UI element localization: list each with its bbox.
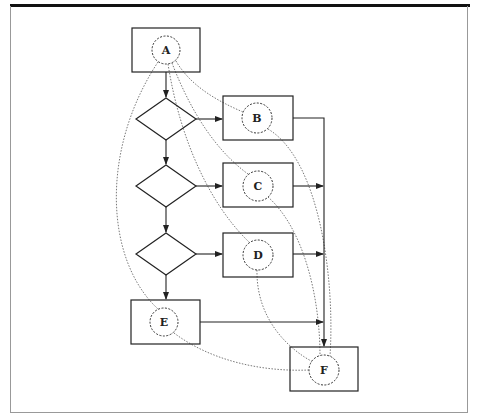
decision-diamonds: [136, 98, 196, 275]
decision-3[interactable]: [136, 233, 196, 275]
label-a: A: [161, 44, 171, 57]
decision-2[interactable]: [136, 165, 196, 207]
dotted-edge-a-d: [168, 64, 250, 243]
edge-b-f: [293, 118, 324, 346]
label-c: C: [254, 180, 263, 193]
label-e: E: [160, 316, 168, 329]
dotted-relations: [116, 61, 331, 370]
label-b: B: [252, 112, 261, 125]
label-f: F: [320, 364, 328, 377]
label-d: D: [253, 249, 263, 262]
node-circles: [150, 36, 339, 385]
decision-1[interactable]: [136, 98, 196, 140]
dotted-edge-d-f: [257, 270, 313, 362]
flowchart-canvas: A B C D E F: [0, 0, 478, 420]
dotted-edge-e-f: [174, 333, 309, 370]
dotted-edge-a-b: [176, 61, 243, 112]
